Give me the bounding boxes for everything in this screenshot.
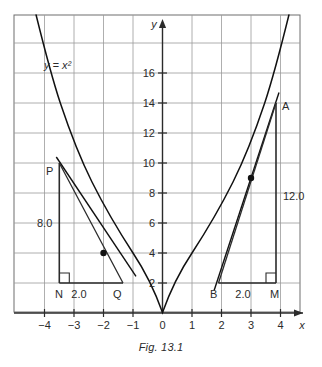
point-label-m: M: [270, 288, 279, 300]
point-label-n: N: [55, 288, 63, 300]
y-tick-label-14: 14: [143, 97, 155, 109]
y-tick-label-10: 10: [143, 157, 155, 169]
x-tick-label-neg4: −4: [38, 319, 51, 331]
y-tick-label-2: 2: [149, 277, 155, 289]
dimension-label-left-horizontal: 2.0: [71, 288, 86, 300]
figure-caption: Fig. 13.1: [0, 341, 322, 353]
y-tick-label-16: 16: [143, 67, 155, 79]
x-tick-label-neg3: −3: [68, 319, 81, 331]
tangency-point-right: [248, 175, 254, 181]
x-tick-label-neg2: −2: [97, 319, 110, 331]
dimension-label-left-vertical: 8.0: [37, 217, 52, 229]
x-tick-label-0: 0: [159, 319, 165, 331]
x-tick-label-4: 4: [277, 319, 283, 331]
x-tick-label-2: 2: [218, 319, 224, 331]
y-tick-label-8: 8: [149, 187, 155, 199]
y-tick-label-4: 4: [149, 247, 155, 259]
x-tick-labels: −4 −3 −2 −1 0 1 2 3 4: [38, 319, 283, 331]
point-label-q: Q: [113, 288, 122, 300]
point-label-a: A: [282, 100, 290, 112]
equation-label: y = x²: [43, 59, 72, 71]
point-label-p: P: [46, 165, 53, 177]
point-label-b: B: [210, 288, 217, 300]
x-tick-label-neg1: −1: [127, 319, 140, 331]
y-tick-label-6: 6: [149, 217, 155, 229]
y-tick-label-12: 12: [143, 127, 155, 139]
x-tick-label-3: 3: [248, 319, 254, 331]
dimension-label-right-vertical: 12.0: [283, 190, 304, 202]
x-tick-label-1: 1: [189, 319, 195, 331]
x-axis-label: x: [298, 319, 305, 331]
dimension-label-right-horizontal: 2.0: [235, 288, 250, 300]
tangency-point-left: [100, 250, 106, 256]
figure-13-1: 2 4 6 8 10 12 14 16 −4 −3 −2 −1 0 1 2 3 …: [0, 0, 322, 367]
